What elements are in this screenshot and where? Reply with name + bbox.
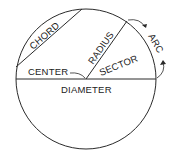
sector-label: SECTOR [98,52,140,77]
center-label: CENTER [28,66,68,77]
diameter-label: DIAMETER [61,84,112,95]
arrowhead-icon [142,24,147,28]
center-arrow [70,73,85,78]
chord-label: CHORD [27,20,61,52]
arc-label: ARC [146,32,166,55]
radius-label: RADIUS [86,29,116,66]
arrowhead-icon [160,60,166,65]
circle-diagram: CHORD RADIUS SECTOR ARC CENTER DIAMETER [0,0,171,155]
arc-arrow-top [128,20,145,27]
